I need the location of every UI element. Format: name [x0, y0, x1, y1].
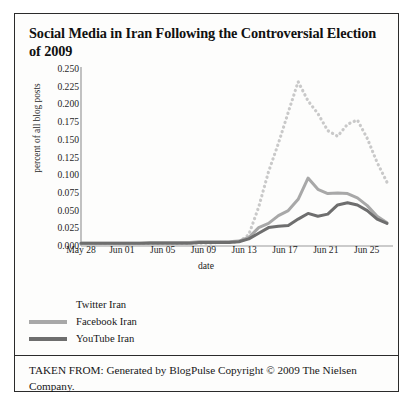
series-line-youtube-iran	[81, 203, 387, 243]
solid-line-swatch	[29, 333, 67, 345]
series-line-facebook-iran	[81, 178, 387, 243]
legend-swatch-line	[29, 337, 67, 341]
x-axis-label: date	[15, 260, 397, 271]
chart-legend: Twitter IranFacebook IranYouTube Iran	[29, 296, 269, 347]
caption-divider	[15, 355, 398, 356]
chart-axes	[81, 67, 393, 246]
x-tick-label: Jun 01	[109, 244, 134, 255]
legend-label: YouTube Iran	[76, 333, 134, 344]
x-tick-label: Jun 09	[191, 244, 216, 255]
legend-item[interactable]: Twitter Iran	[29, 296, 269, 313]
chart-series-group	[81, 82, 387, 244]
legend-label: Facebook Iran	[76, 316, 137, 327]
legend-label: Twitter Iran	[76, 299, 126, 310]
series-line-twitter-iran	[81, 82, 387, 244]
x-tick-label: Jun 17	[272, 244, 297, 255]
legend-item[interactable]: Facebook Iran	[29, 313, 269, 330]
x-tick-label: Jun 05	[150, 244, 175, 255]
x-tick-label: Jun 13	[232, 244, 257, 255]
x-axis-tick-labels: May 28Jun 01Jun 05Jun 09Jun 13Jun 17Jun …	[15, 244, 397, 260]
figure-panel: Social Media in Iran Following the Contr…	[14, 13, 399, 392]
legend-swatch-line	[29, 320, 67, 324]
dotted-line-swatch	[29, 299, 67, 311]
legend-item[interactable]: YouTube Iran	[29, 330, 269, 347]
solid-line-swatch	[29, 316, 67, 328]
chart-plot-area: percent of all blog posts 0.0000.0250.05…	[15, 61, 397, 291]
figure-title: Social Media in Iran Following the Contr…	[29, 24, 385, 60]
x-tick-label: May 28	[66, 244, 96, 255]
x-tick-label: Jun 25	[354, 244, 379, 255]
x-tick-label: Jun 21	[313, 244, 338, 255]
figure-caption: TAKEN FROM: Generated by BlogPulse Copyr…	[29, 363, 385, 394]
